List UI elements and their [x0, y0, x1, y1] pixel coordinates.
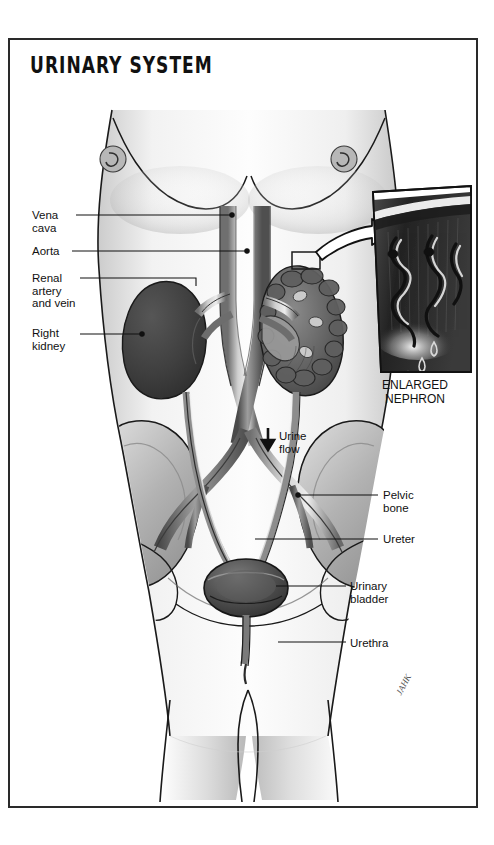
- label-renal-artery-and-vein: Renal artery and vein: [32, 272, 75, 310]
- kidney-left-whole: [123, 282, 207, 399]
- label-aorta: Aorta: [32, 245, 60, 258]
- label-vena-cava: Vena cava: [32, 209, 58, 234]
- urethra-tube: [244, 615, 246, 664]
- annotation-urine-flow: Urine flow: [279, 430, 306, 455]
- label-ureter: Ureter: [383, 533, 415, 546]
- nipple-left: [100, 146, 126, 172]
- anatomy-artwork: [0, 0, 494, 845]
- label-pelvic-bone: Pelvic bone: [383, 489, 414, 514]
- label-urinary-bladder: Urinary bladder: [350, 580, 388, 605]
- illustration-canvas: URINARY SYSTEM Vena cava Aorta Renal art…: [0, 0, 494, 845]
- nipple-right: [331, 146, 357, 172]
- page-title: URINARY SYSTEM: [30, 52, 213, 78]
- inset-caption-enlarged-nephron: ENLARGED NEPHRON: [360, 379, 470, 406]
- label-right-kidney: Right kidney: [32, 327, 65, 352]
- nephron-inset: [370, 186, 472, 384]
- label-urethra: Urethra: [350, 637, 388, 650]
